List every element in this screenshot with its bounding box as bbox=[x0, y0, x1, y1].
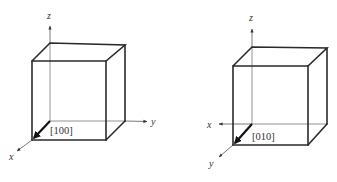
cube-010-figure: z x y [010] bbox=[206, 12, 327, 169]
z-axis-label: z bbox=[248, 12, 253, 23]
y-axis-label: y bbox=[150, 116, 156, 127]
direction-label-010: [010] bbox=[252, 131, 275, 142]
z-axis-label: z bbox=[46, 10, 51, 21]
x-axis bbox=[17, 140, 32, 151]
y-axis bbox=[219, 145, 233, 157]
y-axis-label: y bbox=[208, 158, 214, 169]
y-axis bbox=[125, 121, 147, 122]
x-axis-label: x bbox=[206, 119, 212, 130]
crystal-direction-diagram: z y x [100] z x y [010] bbox=[0, 0, 337, 182]
x-axis-label: x bbox=[8, 151, 14, 162]
direction-label-100: [100] bbox=[50, 125, 73, 136]
direction-vector-010 bbox=[235, 124, 252, 143]
cube-100-figure: z y x [100] bbox=[8, 10, 156, 162]
direction-vector-100 bbox=[34, 121, 50, 138]
